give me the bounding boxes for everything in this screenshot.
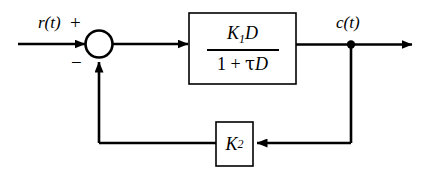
denominator-plus: +: [230, 54, 240, 74]
output-signal-label: c(t): [336, 14, 360, 31]
summing-junction-minus-sign: −: [71, 53, 82, 72]
numerator-gain: K: [227, 23, 239, 43]
forward-block-numerator: K1D: [227, 23, 258, 46]
denominator-tau: τ: [245, 53, 255, 74]
feedback-gain: K: [225, 134, 237, 155]
feedback-block-expression: K2: [216, 122, 253, 166]
summing-junction-circle: [86, 31, 113, 58]
denominator-operator: D: [255, 54, 268, 74]
feedback-gain-subscript: 2: [238, 137, 244, 152]
summing-junction-plus-sign: +: [70, 13, 81, 32]
denominator-constant: 1: [217, 54, 226, 74]
forward-block-expression: K1D 1 + τD: [189, 13, 296, 84]
forward-block-denominator: 1 + τD: [217, 54, 268, 75]
numerator-operator: D: [245, 23, 258, 43]
block-diagram: r(t) c(t) + − K1D 1 + τD K2: [0, 0, 435, 173]
input-signal-label: r(t): [38, 14, 61, 31]
fraction-bar: [207, 49, 279, 51]
